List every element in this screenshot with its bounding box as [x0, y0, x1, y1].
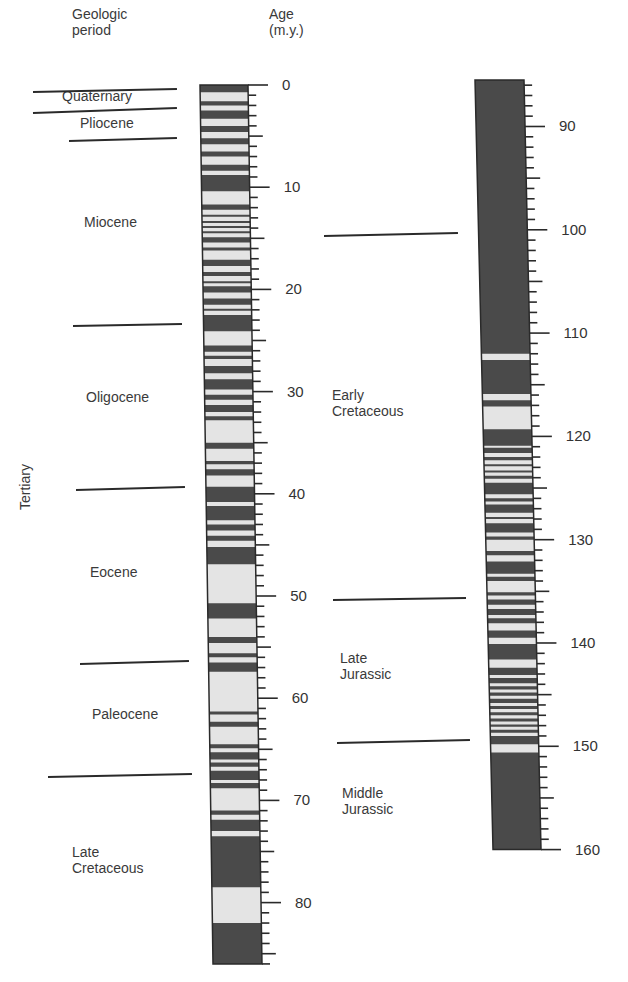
- normal-polarity-band: [490, 712, 538, 715]
- normal-polarity-band: [204, 379, 252, 389]
- normal-polarity-band: [206, 461, 254, 464]
- normal-polarity-band: [211, 820, 260, 831]
- axis-tick-label: 40: [289, 485, 306, 502]
- normal-polarity-band: [490, 736, 538, 744]
- normal-polarity-band: [487, 592, 535, 595]
- normal-polarity-band: [202, 231, 250, 233]
- normal-polarity-band: [206, 506, 255, 520]
- normal-polarity-band: [489, 668, 537, 675]
- normal-polarity-band: [210, 744, 259, 748]
- normal-polarity-band: [484, 470, 533, 472]
- axis-tick-label: 10: [284, 178, 301, 195]
- axis-tick-label: 50: [290, 587, 307, 604]
- axis-tick-label: 150: [573, 737, 598, 754]
- normal-polarity-band: [207, 524, 256, 530]
- normal-polarity-band: [212, 923, 262, 964]
- axis-tick-label: 160: [575, 841, 600, 858]
- normal-polarity-band: [484, 457, 533, 460]
- normal-polarity-band: [210, 763, 259, 767]
- normal-polarity-band: [486, 537, 534, 540]
- normal-polarity-band: [208, 637, 257, 643]
- polarity-column-right: 90100110120130140150160: [475, 80, 600, 858]
- normal-polarity-band: [203, 315, 252, 331]
- axis-tick-label: 120: [566, 427, 591, 444]
- axis-tick-label: 70: [293, 791, 310, 808]
- normal-polarity-band: [489, 678, 537, 683]
- normal-polarity-band: [487, 609, 535, 615]
- normal-polarity-band: [483, 429, 532, 446]
- normal-polarity-band: [205, 416, 253, 420]
- normal-polarity-band: [482, 400, 531, 406]
- normal-polarity-band: [206, 487, 255, 502]
- normal-polarity-band: [484, 448, 533, 453]
- normal-polarity-band: [203, 281, 251, 283]
- normal-polarity-band: [489, 699, 537, 703]
- axis-tick-label: 90: [559, 117, 576, 134]
- normal-polarity-band: [488, 618, 536, 623]
- normal-polarity-band: [489, 686, 537, 689]
- normal-polarity-band: [210, 771, 259, 780]
- axis-tick-label: 0: [282, 76, 290, 93]
- polarity-timescale-chart: 0102030405060708090100110120130140150160: [0, 0, 628, 982]
- normal-polarity-band: [207, 547, 256, 564]
- normal-polarity-band: [204, 346, 252, 352]
- normal-polarity-band: [490, 730, 538, 733]
- normal-polarity-band: [209, 722, 258, 727]
- normal-polarity-band: [201, 151, 249, 156]
- normal-polarity-band: [211, 836, 261, 887]
- normal-polarity-band: [210, 783, 259, 788]
- normal-polarity-band: [202, 247, 250, 250]
- normal-polarity-band: [209, 711, 258, 714]
- normal-polarity-band: [201, 126, 249, 132]
- polarity-column-left: 01020304050607080: [200, 76, 312, 964]
- normal-polarity-band: [200, 85, 248, 92]
- axis-tick-label: 80: [295, 894, 312, 911]
- normal-polarity-band: [201, 138, 249, 144]
- normal-polarity-band: [487, 600, 535, 605]
- normal-polarity-band: [204, 366, 252, 373]
- normal-polarity-band: [485, 505, 534, 513]
- normal-polarity-band: [209, 662, 258, 671]
- normal-polarity-band: [484, 483, 533, 494]
- axis-tick-label: 110: [564, 324, 588, 341]
- normal-polarity-band: [487, 577, 535, 581]
- normal-polarity-band: [485, 517, 533, 519]
- normal-polarity-band: [202, 226, 250, 228]
- normal-polarity-band: [203, 272, 251, 276]
- normal-polarity-band: [485, 498, 534, 501]
- normal-polarity-band: [482, 360, 531, 394]
- axis-tick-label: 140: [570, 634, 595, 651]
- normal-polarity-band: [490, 725, 538, 727]
- normal-polarity-band: [203, 299, 251, 305]
- normal-polarity-band: [203, 309, 251, 311]
- normal-polarity-band: [201, 175, 249, 191]
- axis-tick-label: 60: [292, 689, 309, 706]
- normal-polarity-band: [484, 476, 533, 479]
- normal-polarity-band: [488, 631, 536, 638]
- normal-polarity-band: [203, 260, 251, 266]
- normal-polarity-band: [490, 718, 538, 721]
- normal-polarity-band: [210, 752, 259, 759]
- normal-polarity-band: [486, 551, 534, 555]
- axis-tick-label: 30: [287, 383, 304, 400]
- normal-polarity-band: [200, 101, 248, 105]
- normal-polarity-band: [207, 536, 256, 541]
- axis-tick-label: 100: [561, 221, 586, 238]
- normal-polarity-band: [484, 464, 533, 466]
- normal-polarity-band: [201, 165, 249, 171]
- axis-tick-label: 130: [568, 531, 593, 548]
- normal-polarity-band: [202, 205, 250, 210]
- normal-polarity-band: [205, 395, 253, 400]
- normal-polarity-band: [208, 603, 257, 618]
- normal-polarity-band: [490, 706, 538, 709]
- normal-polarity-band: [206, 469, 255, 475]
- normal-polarity-band: [491, 752, 541, 849]
- normal-polarity-band: [200, 111, 248, 119]
- normal-polarity-band: [211, 811, 260, 815]
- normal-polarity-band: [485, 523, 534, 532]
- normal-polarity-band: [202, 237, 250, 242]
- normal-polarity-band: [202, 215, 250, 217]
- normal-polarity-band: [205, 443, 254, 449]
- normal-polarity-band: [486, 561, 535, 573]
- normal-polarity-band: [208, 653, 257, 657]
